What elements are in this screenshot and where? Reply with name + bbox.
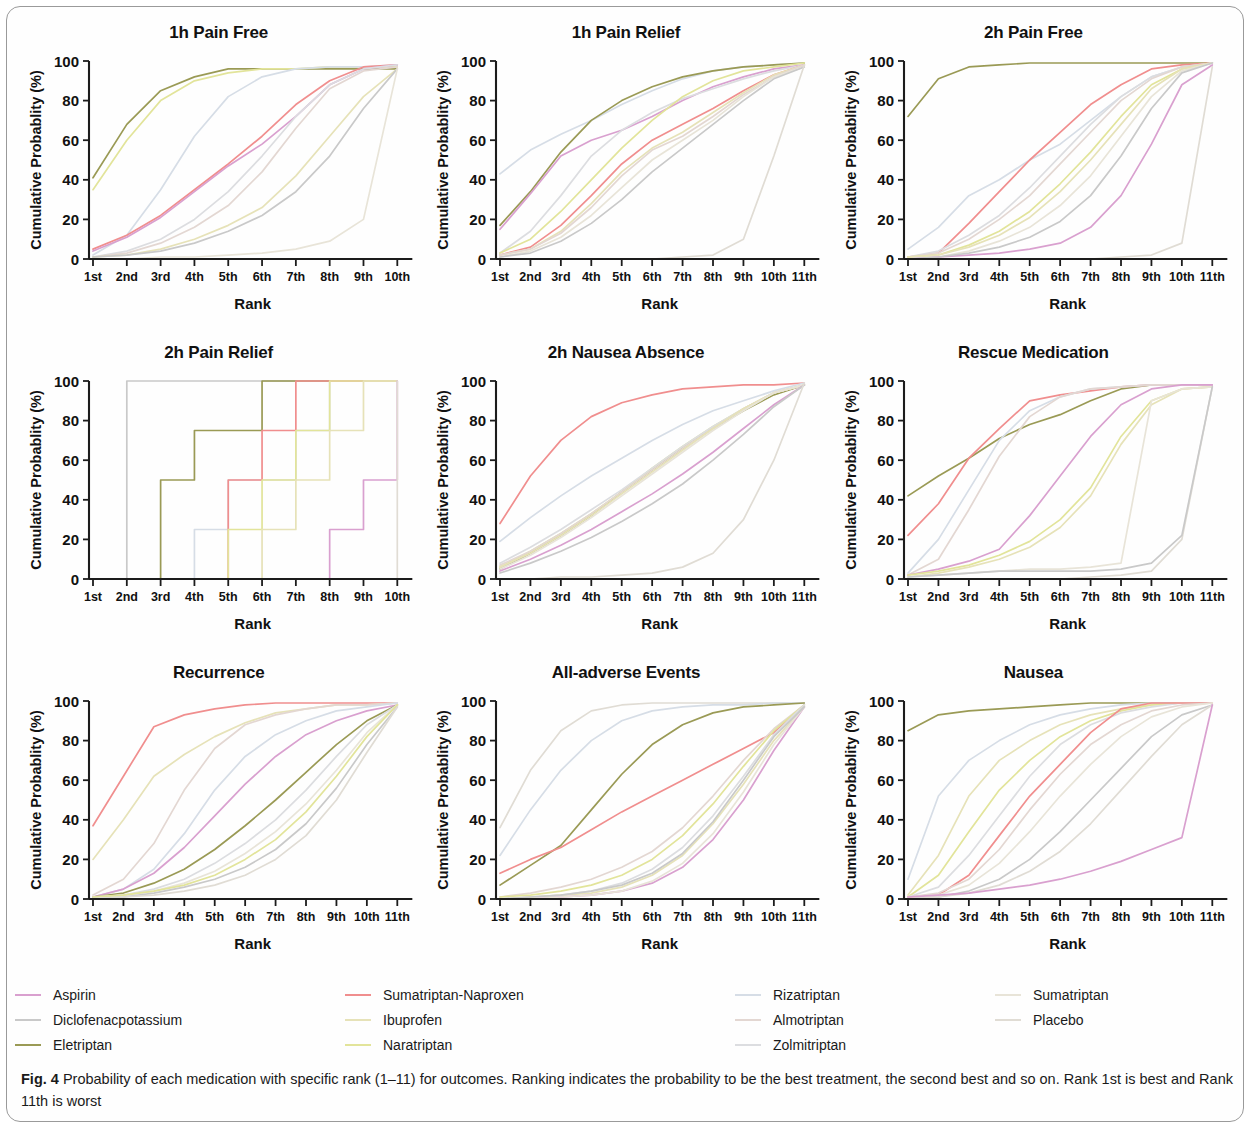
x-tick-label: 4th <box>185 270 204 284</box>
plot-area: 0204060801001st2nd3rd4th5th6th7th8th9th1… <box>422 657 829 977</box>
y-axis-title: Cumulative Probablity (%) <box>843 390 859 570</box>
x-tick-label: 9th <box>354 590 373 604</box>
series-line <box>500 383 804 541</box>
x-tick-label: 11th <box>792 590 817 604</box>
x-tick-label: 10th <box>1169 910 1195 924</box>
y-tick-label: 20 <box>877 531 894 548</box>
y-tick-label: 80 <box>470 412 487 429</box>
y-axis-title: Cumulative Probablity (%) <box>435 390 451 570</box>
y-tick-label: 60 <box>470 132 487 149</box>
y-axis-title: Cumulative Probablity (%) <box>28 390 44 570</box>
x-tick-label: 10th <box>1169 590 1195 604</box>
y-tick-label: 80 <box>470 92 487 109</box>
legend-item: Zolmitriptan <box>735 1032 995 1057</box>
plot-area: 0204060801001st2nd3rd4th5th6th7th8th9th1… <box>15 17 422 337</box>
chart-panel: 1h Pain Free0204060801001st2nd3rd4th5th6… <box>15 17 422 337</box>
y-tick-label: 100 <box>54 53 79 70</box>
y-tick-label: 60 <box>470 772 487 789</box>
x-tick-label: 4th <box>185 590 204 604</box>
y-tick-label: 40 <box>877 811 894 828</box>
x-tick-label: 10th <box>761 910 787 924</box>
x-tick-label: 11th <box>792 270 817 284</box>
series-line <box>908 63 1212 259</box>
legend-column: AspirinDiclofenacpotassiumEletriptan <box>15 982 345 1058</box>
x-tick-label: 1st <box>491 910 510 924</box>
series-line <box>908 63 1212 257</box>
x-tick-label: 5th <box>1020 590 1039 604</box>
x-tick-label: 5th <box>219 270 238 284</box>
chart-panel: 2h Pain Free0204060801001st2nd3rd4th5th6… <box>830 17 1237 337</box>
caption-label: Fig. 4 <box>21 1071 59 1087</box>
legend-swatch-icon <box>735 994 761 996</box>
y-tick-label: 60 <box>62 132 79 149</box>
x-tick-label: 6th <box>253 590 272 604</box>
legend-item: Placebo <box>995 1007 1235 1032</box>
series-line <box>908 703 1212 897</box>
plot-area: 0204060801001st2nd3rd4th5th6th7th8th9th1… <box>830 337 1237 657</box>
legend-label: Aspirin <box>53 987 96 1003</box>
plot-area: 0204060801001st2nd3rd4th5th6th7th8th9th1… <box>15 337 422 657</box>
series-line <box>93 703 397 826</box>
series-line <box>908 63 1212 257</box>
y-axis-title: Cumulative Probablity (%) <box>435 710 451 890</box>
series-line <box>500 705 804 899</box>
y-tick-label: 0 <box>478 251 486 268</box>
series-line <box>500 383 804 579</box>
series-line <box>93 67 397 190</box>
legend-item: Diclofenacpotassium <box>15 1007 345 1032</box>
legend-label: Sumatriptan-Naproxen <box>383 987 524 1003</box>
figure-frame: 1h Pain Free0204060801001st2nd3rd4th5th6… <box>6 6 1244 1122</box>
plot-area: 0204060801001st2nd3rd4th5th6th7th8th9th1… <box>830 17 1237 337</box>
x-tick-label: 11th <box>1199 910 1224 924</box>
legend-label: Eletriptan <box>53 1037 112 1053</box>
x-tick-label: 5th <box>613 590 632 604</box>
y-tick-label: 0 <box>478 571 486 588</box>
x-tick-label: 5th <box>613 270 632 284</box>
x-tick-label: 8th <box>704 270 723 284</box>
plot-area: 0204060801001st2nd3rd4th5th6th7th8th9th1… <box>422 337 829 657</box>
x-tick-label: 1st <box>84 270 103 284</box>
legend-item: Aspirin <box>15 982 345 1007</box>
x-axis-title: Rank <box>234 295 271 312</box>
series-line <box>93 65 397 249</box>
x-tick-label: 2nd <box>927 910 949 924</box>
series-line <box>500 67 804 257</box>
series-line <box>908 703 1212 897</box>
series-line <box>908 385 1212 535</box>
series-line <box>500 67 804 257</box>
x-axis-title: Rank <box>1049 295 1086 312</box>
y-tick-label: 100 <box>54 693 79 710</box>
x-axis-title: Rank <box>234 935 271 952</box>
chart-panel: All-adverse Events0204060801001st2nd3rd4… <box>422 657 829 977</box>
plot-area: 0204060801001st2nd3rd4th5th6th7th8th9th1… <box>422 17 829 337</box>
y-tick-label: 80 <box>877 732 894 749</box>
x-tick-label: 4th <box>582 910 601 924</box>
x-tick-label: 7th <box>266 910 285 924</box>
series-line <box>500 65 804 259</box>
y-tick-label: 20 <box>877 211 894 228</box>
x-tick-label: 7th <box>1081 270 1100 284</box>
plot-area: 0204060801001st2nd3rd4th5th6th7th8th9th1… <box>830 657 1237 977</box>
legend-swatch-icon <box>735 1044 761 1046</box>
x-tick-label: 8th <box>320 590 339 604</box>
series-line <box>908 385 1212 573</box>
chart-panel: Nausea0204060801001st2nd3rd4th5th6th7th8… <box>830 657 1237 977</box>
y-axis-title: Cumulative Probablity (%) <box>28 70 44 250</box>
y-tick-label: 100 <box>54 373 79 390</box>
legend-label: Ibuprofen <box>383 1012 442 1028</box>
series-line <box>908 705 1212 897</box>
x-tick-label: 2nd <box>520 270 542 284</box>
series-line <box>908 705 1212 899</box>
y-tick-label: 40 <box>877 491 894 508</box>
x-tick-label: 8th <box>1111 590 1130 604</box>
y-tick-label: 40 <box>62 811 79 828</box>
legend-label: Zolmitriptan <box>773 1037 846 1053</box>
y-tick-label: 80 <box>62 92 79 109</box>
x-tick-label: 9th <box>734 270 753 284</box>
y-axis-title: Cumulative Probablity (%) <box>843 710 859 890</box>
series-line <box>500 705 804 897</box>
legend-swatch-icon <box>345 1044 371 1046</box>
legend-item: Almotriptan <box>735 1007 995 1032</box>
x-tick-label: 6th <box>1050 270 1069 284</box>
y-axis-title: Cumulative Probablity (%) <box>843 70 859 250</box>
